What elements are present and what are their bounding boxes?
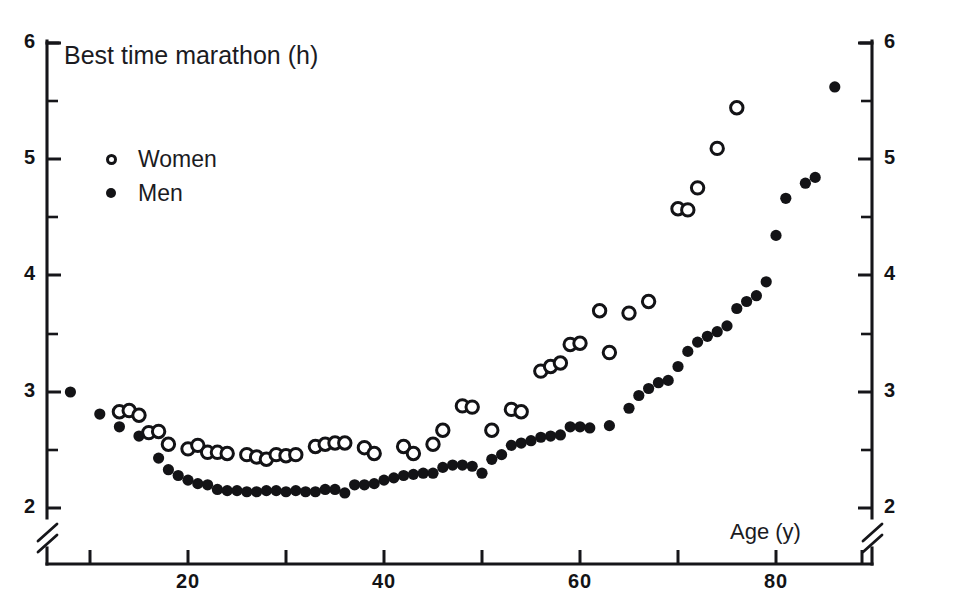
data-point-men <box>467 461 478 472</box>
y-label-left-4: 4 <box>6 262 36 285</box>
chart-legend: Women Men <box>98 142 217 210</box>
filled-circle-icon <box>98 188 124 198</box>
data-point-men <box>202 479 213 490</box>
data-point-women <box>437 424 449 436</box>
data-point-women <box>554 357 566 369</box>
data-point-men <box>604 420 615 431</box>
data-point-men <box>800 178 811 189</box>
data-point-men <box>770 230 781 241</box>
chart-title: Best time marathon (h) <box>64 41 318 70</box>
data-point-men <box>231 485 242 496</box>
data-point-women <box>466 401 478 413</box>
data-point-men <box>702 331 713 342</box>
data-point-men <box>133 430 144 441</box>
legend-label-women: Women <box>138 146 217 173</box>
data-point-women <box>731 102 743 114</box>
data-point-women <box>162 438 174 450</box>
data-point-men <box>496 449 507 460</box>
data-point-men <box>623 403 634 414</box>
data-point-men <box>65 386 76 397</box>
data-point-men <box>476 468 487 479</box>
x-axis-ticks <box>90 550 862 564</box>
legend-item-men: Men <box>98 176 217 210</box>
data-point-women <box>407 447 419 459</box>
y-label-left-2: 2 <box>6 495 36 518</box>
data-point-men <box>525 435 536 446</box>
data-point-men <box>329 484 340 495</box>
data-point-men <box>290 485 301 496</box>
data-point-men <box>829 81 840 92</box>
data-point-men <box>369 478 380 489</box>
data-point-men <box>633 390 644 401</box>
data-point-men <box>643 383 654 394</box>
data-point-men <box>271 485 282 496</box>
data-point-men <box>310 486 321 497</box>
data-point-men <box>300 486 311 497</box>
data-point-men <box>398 470 409 481</box>
y-axis-left-ticks <box>47 43 61 508</box>
data-point-men <box>780 193 791 204</box>
data-point-women <box>642 295 654 307</box>
open-circle-icon <box>98 154 124 165</box>
data-point-women <box>682 204 694 216</box>
data-point-men <box>339 487 350 498</box>
data-point-men <box>810 172 821 183</box>
x-label-20: 20 <box>158 570 218 593</box>
data-point-men <box>672 361 683 372</box>
data-point-men <box>751 290 762 301</box>
data-point-women <box>221 447 233 459</box>
data-point-women <box>427 438 439 450</box>
data-point-men <box>261 485 272 496</box>
data-point-men <box>535 432 546 443</box>
data-point-women <box>368 447 380 459</box>
y-label-left-5: 5 <box>6 146 36 169</box>
y-label-right-3: 3 <box>884 379 896 402</box>
data-point-men <box>457 459 468 470</box>
data-point-men <box>653 377 664 388</box>
data-point-men <box>682 346 693 357</box>
data-point-men <box>388 472 399 483</box>
data-point-men <box>280 486 291 497</box>
data-point-men <box>565 421 576 432</box>
data-point-men <box>731 303 742 314</box>
data-point-men <box>94 408 105 419</box>
data-point-men <box>712 326 723 337</box>
data-point-men <box>427 468 438 479</box>
data-point-men <box>574 421 585 432</box>
chart-plot-area <box>0 0 957 598</box>
data-point-men <box>555 429 566 440</box>
data-point-men <box>192 478 203 489</box>
x-axis-title: Age (y) <box>730 519 801 545</box>
data-point-men <box>408 469 419 480</box>
data-point-women <box>290 448 302 460</box>
data-point-men <box>173 470 184 481</box>
data-point-men <box>545 430 556 441</box>
data-point-women <box>515 406 527 418</box>
y-label-right-4: 4 <box>884 262 896 285</box>
data-point-women <box>339 437 351 449</box>
y-label-right-2: 2 <box>884 495 896 518</box>
legend-label-men: Men <box>138 180 183 207</box>
data-point-women <box>691 182 703 194</box>
data-point-men <box>761 276 772 287</box>
data-point-women <box>623 307 635 319</box>
data-point-women <box>603 346 615 358</box>
data-point-men <box>251 486 262 497</box>
data-point-men <box>721 320 732 331</box>
y-label-left-3: 3 <box>6 379 36 402</box>
data-point-men <box>163 464 174 475</box>
data-point-men <box>437 462 448 473</box>
data-point-men <box>584 422 595 433</box>
data-point-men <box>320 484 331 495</box>
data-point-women <box>593 305 605 317</box>
y-label-right-5: 5 <box>884 146 896 169</box>
data-point-men <box>418 468 429 479</box>
x-label-60: 60 <box>550 570 610 593</box>
legend-item-women: Women <box>98 142 217 176</box>
x-label-80: 80 <box>746 570 806 593</box>
data-point-men <box>241 486 252 497</box>
data-point-men <box>349 479 360 490</box>
data-point-men <box>516 437 527 448</box>
data-point-men <box>378 475 389 486</box>
data-point-men <box>692 337 703 348</box>
